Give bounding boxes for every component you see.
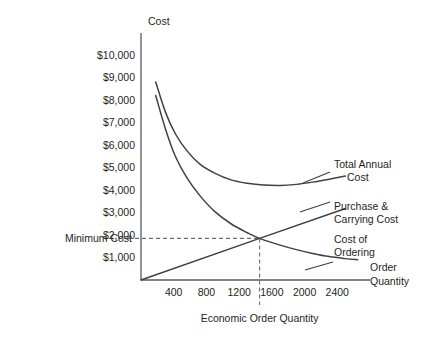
minimum-cost-label: Minimum Cost — [65, 232, 132, 244]
series-label-cost-of-ordering-line2: Ordering — [334, 246, 375, 258]
leader-purchase-carrying-cost — [300, 202, 330, 212]
y-tick-label: $5,000 — [103, 161, 135, 173]
series-label-total-annual-cost-line1: Total Annual — [334, 158, 391, 170]
y-tick-label: $1,000 — [103, 251, 135, 263]
series-label-cost-of-ordering-line1: Cost of — [334, 233, 367, 245]
series-curves — [141, 82, 358, 280]
x-tick-label: 800 — [198, 286, 216, 298]
y-tick-label: $7,000 — [103, 116, 135, 128]
y-tick-label: $8,000 — [103, 94, 135, 106]
x-tick-label: 2000 — [293, 286, 317, 298]
y-tick-label: $9,000 — [103, 71, 135, 83]
y-tick-label: $4,000 — [103, 184, 135, 196]
series-curve-purchase-carrying-cost — [141, 208, 345, 280]
chart-canvas: Cost Order Quantity $1,000$2,000$3,000$4… — [0, 0, 435, 351]
series-curve-cost-of-ordering — [156, 96, 358, 260]
leader-cost-of-ordering — [305, 262, 333, 270]
eoq-chart: Cost Order Quantity $1,000$2,000$3,000$4… — [0, 0, 435, 351]
eoq-caption: Economic Order Quantity — [201, 312, 320, 324]
y-axis-title: Cost — [148, 15, 170, 27]
y-tick-label: $10,000 — [97, 49, 135, 61]
x-tick-label: 1200 — [227, 286, 251, 298]
x-axis-tick-labels: 4008001200160020002400 — [165, 286, 349, 298]
y-axis-tick-labels: $1,000$2,000$3,000$4,000$5,000$6,000$7,0… — [97, 49, 135, 264]
y-tick-label: $6,000 — [103, 139, 135, 151]
x-tick-label: 400 — [165, 286, 183, 298]
y-tick-label: $3,000 — [103, 206, 135, 218]
x-tick-label: 2400 — [326, 286, 350, 298]
x-axis-title-line1: Order — [370, 261, 397, 273]
series-label-total-annual-cost-line2: Cost — [347, 171, 369, 183]
x-axis-title-line2: Quantity — [370, 275, 410, 287]
series-label-purchase-carrying-cost-line1: Purchase & — [334, 200, 388, 212]
series-label-purchase-carrying-cost-line2: Carrying Cost — [334, 213, 398, 225]
x-tick-label: 1600 — [260, 286, 284, 298]
series-curve-total-annual-cost — [156, 82, 346, 186]
